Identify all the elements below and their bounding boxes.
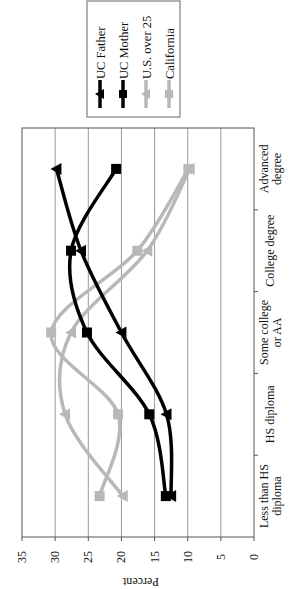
y-tick-label: 15 bbox=[148, 551, 162, 563]
y-tick-label: 0 bbox=[247, 554, 261, 560]
square-marker bbox=[183, 164, 193, 174]
square-marker bbox=[82, 328, 92, 338]
legend-label: UC Mother bbox=[117, 21, 131, 79]
category-label: HS diploma bbox=[263, 385, 277, 443]
legend-square-icon bbox=[165, 90, 173, 98]
category-axis: Less than HSdiplomaHS diplomaSome colleg… bbox=[254, 145, 284, 529]
series-lines bbox=[46, 163, 195, 502]
category-label: Advanceddegree bbox=[257, 145, 284, 194]
y-tick-label: 35 bbox=[15, 551, 29, 563]
y-tick-label: 10 bbox=[181, 551, 195, 563]
legend-label: California bbox=[163, 28, 177, 79]
square-marker bbox=[113, 409, 123, 419]
series-u-s-over-25 bbox=[59, 163, 195, 502]
category-label: Less than HSdiploma bbox=[257, 464, 284, 528]
square-marker bbox=[46, 328, 56, 338]
line-chart: 05101520253035 Less than HSdiplomaHS dip… bbox=[0, 0, 293, 589]
y-axis-title: Percent bbox=[122, 575, 159, 589]
square-marker bbox=[132, 246, 142, 256]
y-tick-label: 30 bbox=[48, 551, 62, 563]
square-marker bbox=[66, 246, 76, 256]
square-marker bbox=[161, 491, 171, 501]
category-label: College degree bbox=[263, 215, 277, 287]
category-label: Some collegeor AA bbox=[257, 300, 284, 365]
legend-label: U.S. over 25 bbox=[140, 16, 154, 79]
square-marker bbox=[111, 164, 121, 174]
legend-square-icon bbox=[119, 90, 127, 98]
y-tick-label: 5 bbox=[214, 554, 228, 560]
square-marker bbox=[95, 491, 105, 501]
legend: UC FatherUC MotherU.S. over 25California bbox=[87, 1, 180, 117]
gridlines bbox=[55, 128, 221, 537]
square-marker bbox=[144, 409, 154, 419]
legend-label: UC Father bbox=[94, 26, 108, 79]
y-tick-label: 25 bbox=[81, 551, 95, 563]
plot-area bbox=[22, 128, 254, 537]
value-axis: 05101520253035 bbox=[15, 537, 261, 563]
y-tick-label: 20 bbox=[114, 551, 128, 563]
